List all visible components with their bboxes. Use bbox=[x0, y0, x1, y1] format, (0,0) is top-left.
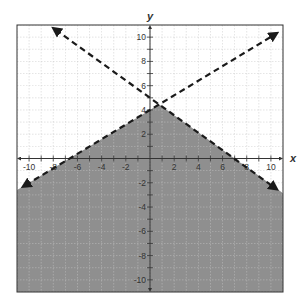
y-tick-label: 4 bbox=[141, 105, 146, 115]
y-tick-label: -10 bbox=[134, 275, 147, 285]
coordinate-graph: -10-8-6-4-2246810 108642-2-4-6-8-10 x y bbox=[0, 0, 306, 302]
y-axis-title: y bbox=[146, 10, 154, 22]
x-tick-label: -2 bbox=[122, 162, 130, 172]
y-tick-label: -8 bbox=[138, 251, 146, 261]
x-tick-label: 2 bbox=[172, 162, 177, 172]
x-tick-label: 6 bbox=[220, 162, 225, 172]
y-tick-label: 8 bbox=[141, 56, 146, 66]
y-tick-label: -4 bbox=[138, 202, 146, 212]
x-axis-title: x bbox=[289, 152, 297, 164]
x-tick-label: 10 bbox=[266, 162, 276, 172]
x-tick-label: -4 bbox=[98, 162, 106, 172]
y-tick-label: 6 bbox=[141, 81, 146, 91]
y-tick-label: 2 bbox=[141, 129, 146, 139]
y-tick-label: -6 bbox=[138, 226, 146, 236]
x-tick-label: 4 bbox=[196, 162, 201, 172]
x-tick-label: -6 bbox=[74, 162, 82, 172]
y-tick-label: -2 bbox=[138, 178, 146, 188]
y-tick-label: 10 bbox=[137, 32, 147, 42]
x-tick-label: -10 bbox=[23, 162, 36, 172]
